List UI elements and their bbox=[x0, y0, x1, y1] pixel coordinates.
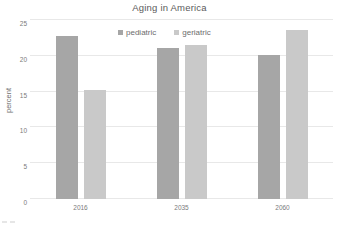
bar-pediatric-2035[interactable] bbox=[157, 48, 179, 199]
plot-area bbox=[30, 20, 333, 199]
bar-chart: Aging in America pediatric geriatric 051… bbox=[0, 0, 339, 225]
bar-pediatric-2016[interactable] bbox=[56, 36, 78, 199]
x-axis: 201620352060 bbox=[30, 202, 333, 218]
x-tick-label: 2060 bbox=[253, 204, 313, 211]
chart-title: Aging in America bbox=[0, 2, 339, 13]
bar-geriatric-2016[interactable] bbox=[84, 90, 106, 199]
x-tick-label: 2016 bbox=[51, 204, 111, 211]
y-axis-title: percent bbox=[4, 71, 13, 131]
bar-geriatric-2035[interactable] bbox=[185, 45, 207, 199]
bar-geriatric-2060[interactable] bbox=[286, 30, 308, 199]
page-edge-artifact bbox=[2, 219, 18, 223]
bar-pediatric-2060[interactable] bbox=[258, 55, 280, 199]
x-tick-label: 2035 bbox=[152, 204, 212, 211]
gridline bbox=[30, 19, 333, 20]
